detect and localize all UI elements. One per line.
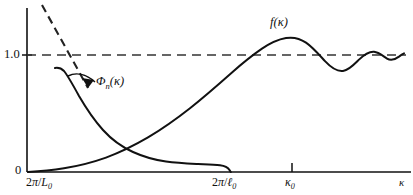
spectrum-curve — [55, 68, 231, 172]
x-tick-label-inner-scale-low: 2π/L0 — [26, 176, 52, 192]
figure-canvas: 1.0 0 2π/L0 2π/ℓ0 κ0 κ Φn(κ) f(κ) — [0, 0, 413, 195]
x-tick-label-kappa-zero: κ0 — [285, 176, 295, 192]
power-law-asymptote-dashed-line — [42, 5, 88, 88]
tick-subscript-zero-outer: 0 — [232, 182, 236, 191]
spectrum-curve-label: Φn(κ) — [96, 75, 124, 90]
x-tick-label-outer-scale: 2π/ℓ0 — [212, 176, 236, 192]
spectrum-argument: (κ) — [110, 74, 124, 88]
tick-subscript-zero: 0 — [48, 182, 52, 191]
plot-svg — [0, 0, 413, 195]
tick-subscript-zero-kappa: 0 — [291, 182, 295, 191]
spectrum-phi-glyph: Φ — [96, 74, 106, 88]
y-axis-label-one: 1.0 — [4, 48, 20, 61]
x-axis-title: κ — [399, 177, 404, 188]
y-axis-label-zero: 0 — [15, 164, 21, 177]
filter-curve-label: f(κ) — [270, 16, 288, 29]
